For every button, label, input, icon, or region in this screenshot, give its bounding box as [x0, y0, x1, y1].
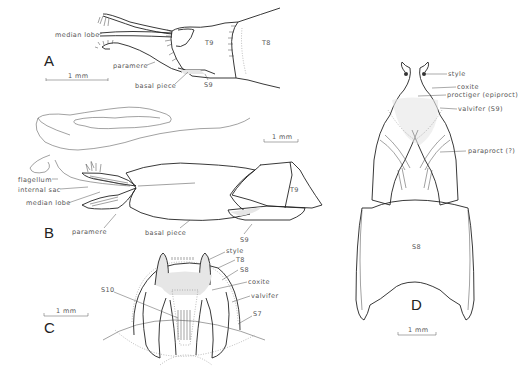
label-t9-b: T9 [289, 186, 299, 194]
panel-a-drawing [95, 8, 280, 88]
label-median-lobe-b: median lobe [26, 199, 71, 207]
panel-d: style coxite proctiger (epiproct) valvif… [356, 62, 518, 335]
scale-bar-a-label: 1 mm [68, 72, 88, 80]
label-paraproct: paraproct (?) [468, 147, 515, 155]
label-proctiger: proctiger (epiproct) [447, 91, 518, 99]
panel-b: flagellum internal sac median lobe param… [18, 107, 322, 244]
label-style: style [226, 247, 244, 255]
label-s8-c: S8 [240, 266, 249, 274]
label-s8-d: S8 [412, 243, 421, 251]
label-t9: T9 [204, 39, 214, 47]
label-valvifer-s9: valvifer (S9) [458, 105, 503, 113]
label-s10: S10 [101, 286, 115, 294]
label-s7-c: S7 [253, 310, 262, 318]
label-s9-b: S9 [240, 236, 249, 244]
panel-a: median lobe paramere basal piece T9 T8 S… [44, 8, 280, 90]
label-valvifer-c: valvifer [251, 292, 278, 300]
label-coxite-d: coxite [457, 83, 479, 91]
label-s9: S9 [204, 81, 213, 89]
label-t8-c: T8 [235, 256, 245, 264]
label-style-d: style [448, 70, 466, 78]
scale-bar-b-label: 1 mm [272, 133, 292, 141]
label-paramere: paramere [113, 62, 148, 70]
panel-c: style T8 S8 coxite valvifer S7 S10 C 1 m… [44, 247, 278, 365]
panel-d-drawing [356, 62, 474, 320]
label-paramere-b: paramere [72, 228, 107, 236]
scale-bar-c: 1 mm [44, 307, 88, 316]
panel-letter-a: A [44, 52, 54, 69]
panel-letter-c: C [44, 319, 55, 336]
panel-letter-b: B [44, 224, 54, 241]
label-median-lobe: median lobe [55, 31, 100, 39]
scale-bar-d-label: 1 mm [408, 326, 428, 334]
panel-letter-d: D [411, 296, 422, 313]
label-basal-piece-b: basal piece [145, 229, 186, 237]
panel-b-drawing [30, 107, 322, 220]
anatomical-figure: median lobe paramere basal piece T9 T8 S… [0, 0, 525, 372]
scale-bar-a: 1 mm [46, 72, 108, 81]
label-t8: T8 [261, 39, 271, 47]
label-coxite-c: coxite [248, 278, 270, 286]
label-basal-piece: basal piece [135, 82, 176, 90]
scale-bar-c-label: 1 mm [56, 307, 76, 315]
scale-bar-b: 1 mm [264, 133, 298, 142]
label-internal-sac: internal sac [18, 186, 61, 194]
label-flagellum: flagellum [18, 176, 52, 184]
scale-bar-d: 1 mm [398, 326, 436, 335]
